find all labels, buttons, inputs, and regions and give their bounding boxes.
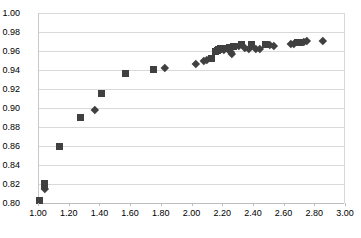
y-tick-label: 0.86 [0,142,20,151]
data-point-square [122,70,129,77]
data-point-square [77,114,84,121]
gridline-y [39,51,344,52]
y-tick-label: 0.94 [0,66,20,75]
gridline-y [39,146,344,147]
x-tick-label: 3.00 [325,209,361,218]
gridline-y [39,70,344,71]
gridline-y [39,184,344,185]
y-tick-label: 0.98 [0,28,20,37]
y-tick-label: 1.00 [0,9,20,18]
gridline-y [39,108,344,109]
x-tick-mark [253,203,254,206]
scatter-chart: 0.800.820.840.860.880.900.920.940.960.98… [0,0,361,238]
y-tick-label: 0.80 [0,199,20,208]
data-point-diamond [192,59,200,67]
y-tick-label: 0.92 [0,85,20,94]
y-tick-label: 0.96 [0,47,20,56]
x-tick-mark [192,203,193,206]
x-tick-mark [284,203,285,206]
plot-area [38,13,345,203]
x-tick-mark [222,203,223,206]
x-tick-mark [161,203,162,206]
gridline-y [39,89,344,90]
y-tick-label: 0.88 [0,123,20,132]
data-point-square [56,143,63,150]
x-tick-mark [99,203,100,206]
y-tick-label: 0.84 [0,161,20,170]
x-tick-mark [38,203,39,206]
x-tick-mark [130,203,131,206]
gridline-y [39,127,344,128]
data-point-diamond [319,37,327,45]
gridline-y [39,165,344,166]
y-tick-label: 0.90 [0,104,20,113]
x-tick-mark [345,203,346,206]
x-tick-mark [314,203,315,206]
gridline-y [39,13,344,14]
data-point-square [98,90,105,97]
data-point-square [150,66,157,73]
gridline-y [39,32,344,33]
x-tick-mark [69,203,70,206]
y-tick-label: 0.82 [0,180,20,189]
